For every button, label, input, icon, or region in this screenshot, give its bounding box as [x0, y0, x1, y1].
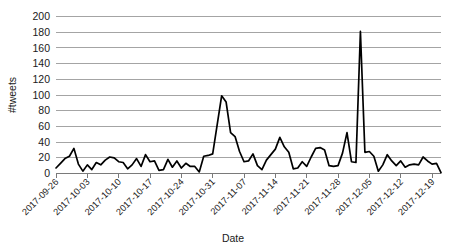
x-axis-title: Date — [222, 232, 244, 244]
y-tick-label: 200 — [32, 10, 50, 22]
y-tick-label: 160 — [32, 42, 50, 54]
y-tick-label: 20 — [38, 151, 50, 163]
y-axis-title: #tweets — [6, 77, 18, 113]
y-tick-label: 60 — [38, 120, 50, 132]
y-tick-label: 180 — [32, 26, 50, 38]
y-tick-label: 80 — [38, 104, 50, 116]
tweet-volume-chart: 020406080100120140160180200 2017-09-2620… — [0, 0, 461, 250]
y-tick-label: 0 — [44, 167, 50, 179]
chart-background — [0, 0, 461, 250]
y-tick-label: 120 — [32, 73, 50, 85]
y-tick-label: 40 — [38, 136, 50, 148]
chart-plot-area: 020406080100120140160180200 2017-09-2620… — [0, 0, 461, 250]
y-tick-label: 140 — [32, 57, 50, 69]
y-tick-label: 100 — [32, 89, 50, 101]
